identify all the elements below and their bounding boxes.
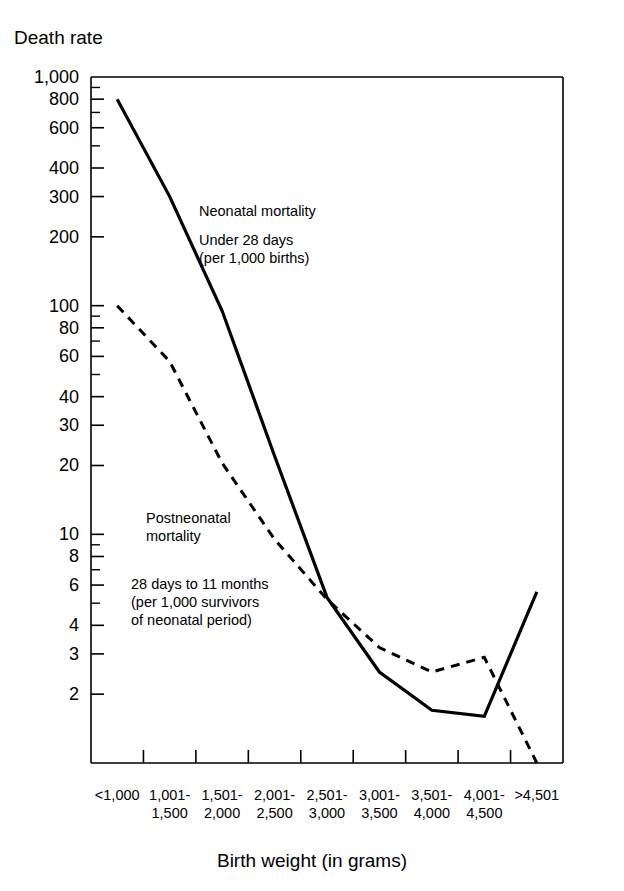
y-tick-label: 300 (49, 187, 79, 207)
x-category-label-line2: 2,500 (256, 805, 292, 821)
y-tick-label: 3 (69, 644, 79, 664)
annotation-postneonatal-line-3: 28 days to 11 months (131, 576, 269, 592)
x-category-label-line2: 4,000 (414, 805, 450, 821)
chart-background (0, 0, 624, 891)
y-tick-label: 20 (59, 455, 79, 475)
x-axis-title: Birth weight (in grams) (217, 850, 407, 871)
annotation-neonatal-line-1: Neonatal mortality (199, 203, 317, 219)
annotation-postneonatal-line-5: of neonatal period) (131, 612, 252, 628)
x-category-label: 3,501- (411, 787, 452, 803)
y-tick-label: 60 (59, 346, 79, 366)
annotation-neonatal-line-3: (per 1,000 births) (199, 250, 309, 266)
x-category-label-line2: 3,000 (309, 805, 345, 821)
y-axis-title: Death rate (14, 27, 103, 48)
x-category-label: 2,501- (306, 787, 347, 803)
y-tick-label: 200 (49, 227, 79, 247)
x-category-label: 2,001- (254, 787, 295, 803)
y-tick-label: 1,000 (34, 67, 79, 87)
mortality-by-birth-weight-chart: Death rate 1,000800600400300200100806040… (0, 0, 624, 891)
x-category-label: 3,001- (359, 787, 400, 803)
y-tick-label: 10 (59, 524, 79, 544)
x-category-label: >4,501 (514, 787, 559, 803)
y-tick-label: 600 (49, 118, 79, 138)
x-category-label: 1,501- (202, 787, 243, 803)
y-tick-label: 400 (49, 158, 79, 178)
annotation-postneonatal-line-1: Postneonatal (146, 510, 231, 526)
x-category-label: 1,001- (149, 787, 190, 803)
x-category-label-line2: 1,500 (152, 805, 188, 821)
y-tick-label: 80 (59, 318, 79, 338)
chart-container: Death rate 1,000800600400300200100806040… (0, 0, 624, 891)
y-tick-label: 2 (69, 684, 79, 704)
y-tick-label: 4 (69, 615, 79, 635)
x-category-label: <1,000 (95, 787, 140, 803)
x-category-label-line2: 3,500 (361, 805, 397, 821)
y-tick-label: 6 (69, 575, 79, 595)
y-tick-label: 30 (59, 415, 79, 435)
y-tick-label: 8 (69, 546, 79, 566)
annotation-neonatal-line-2: Under 28 days (199, 232, 293, 248)
x-category-label-line2: 2,000 (204, 805, 240, 821)
x-category-label-line2: 4,500 (466, 805, 502, 821)
x-category-label: 4,001- (464, 787, 505, 803)
annotation-postneonatal-line-2: mortality (146, 528, 202, 544)
annotation-postneonatal-line-4: (per 1,000 survivors (131, 594, 259, 610)
y-tick-label: 40 (59, 387, 79, 407)
y-tick-label: 800 (49, 89, 79, 109)
y-tick-label: 100 (49, 296, 79, 316)
